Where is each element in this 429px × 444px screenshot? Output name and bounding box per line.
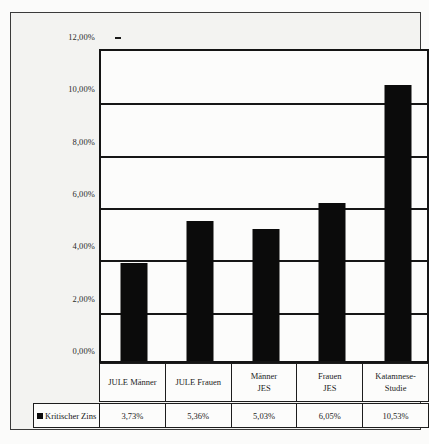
bar-slot [101, 51, 167, 361]
value-cell: 10,53% [363, 404, 428, 427]
category-label: JULE Frauen [166, 364, 232, 401]
bars [101, 51, 427, 361]
bar[interactable] [121, 263, 148, 361]
bar[interactable] [253, 229, 280, 361]
category-label-line: Katamnese- [375, 371, 416, 383]
legend-swatch-icon [37, 413, 43, 419]
y-axis-tick-label: 12,00% [39, 32, 95, 42]
y-axis: 12,00%10,00%8,00%6,00%4,00%2,00%0,00% [33, 13, 95, 444]
value-cell: 5,36% [166, 404, 232, 427]
y-axis-tick-label: 10,00% [39, 84, 95, 94]
value-cell: 3,73% [100, 404, 166, 427]
category-label: Katamnese-Studie [363, 364, 428, 401]
bar-slot [233, 51, 299, 361]
value-cells: 3,73%5,36%5,03%6,05%10,53% [100, 404, 428, 427]
y-axis-tick-label: 2,00% [39, 294, 95, 304]
category-label-line: JULE Frauen [175, 377, 221, 389]
category-table: JULE MännerJULE FrauenMännerJESFrauenJES… [99, 363, 429, 402]
chart-figure: 12,00%10,00%8,00%6,00%4,00%2,00%0,00% JU… [0, 0, 429, 444]
legend-value-row: Kritischer Zins 3,73%5,36%5,03%6,05%10,5… [33, 403, 429, 428]
category-label-line: Männer [251, 371, 277, 383]
legend-entry: Kritischer Zins [34, 404, 100, 427]
legend-label: Kritischer Zins [45, 411, 96, 421]
y-axis-tick-label: 4,00% [39, 241, 95, 251]
bar-slot [167, 51, 233, 361]
bar-slot [365, 51, 429, 361]
y-axis-tick-label: 8,00% [39, 137, 95, 147]
category-label: MännerJES [232, 364, 298, 401]
bar[interactable] [187, 221, 214, 361]
y-axis-tick-label: 6,00% [39, 189, 95, 199]
value-cell: 5,03% [232, 404, 298, 427]
category-label-line: Frauen [318, 371, 342, 383]
category-label: JULE Männer [100, 364, 166, 401]
y-axis-tick-mark [115, 37, 121, 39]
category-label-line: Studie [385, 383, 407, 395]
plot-area [99, 49, 429, 363]
category-label-line: JES [257, 383, 270, 395]
bar-slot [299, 51, 365, 361]
chart-outer-frame: 12,00%10,00%8,00%6,00%4,00%2,00%0,00% JU… [10, 12, 421, 430]
category-label: FrauenJES [297, 364, 363, 401]
category-label-line: JULE Männer [108, 377, 156, 389]
category-label-line: JES [323, 383, 336, 395]
bar[interactable] [319, 203, 346, 361]
bar[interactable] [385, 85, 412, 361]
y-axis-tick-label: 0,00% [39, 346, 95, 356]
value-cell: 6,05% [297, 404, 363, 427]
